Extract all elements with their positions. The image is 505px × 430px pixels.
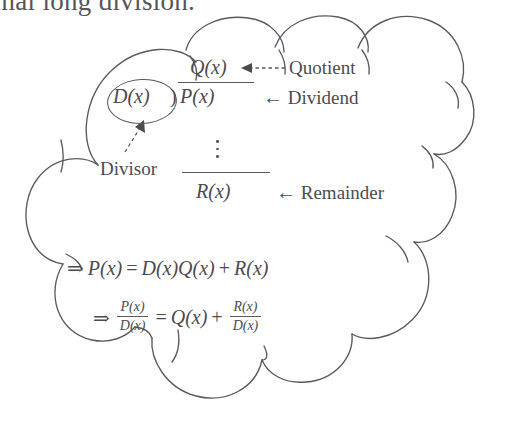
vdot-2 bbox=[216, 148, 219, 151]
eq2-rhs-numerator: R(x) bbox=[230, 299, 262, 316]
eq2-plus: + bbox=[211, 306, 222, 329]
figure-content: Q(x) D(x) ) P(x) R(x) Quotient ← Dividen… bbox=[0, 0, 505, 430]
eq1-plus: + bbox=[219, 257, 230, 279]
eq1-lhs: P(x) bbox=[88, 257, 122, 279]
dividend-label: Dividend bbox=[288, 87, 359, 108]
divisor-expression: D(x) bbox=[113, 85, 150, 108]
vdot-3 bbox=[216, 155, 219, 158]
quotient-label: Quotient bbox=[289, 57, 356, 79]
eq2-equals: = bbox=[155, 306, 166, 329]
vdot-1 bbox=[216, 140, 219, 143]
eq1-equals: = bbox=[126, 257, 137, 279]
eq1-rhs-b: Q(x) bbox=[178, 257, 215, 279]
eq2-rhs-denominator: D(x) bbox=[230, 317, 262, 334]
eq1-rhs-a: D(x) bbox=[141, 257, 178, 279]
dividend-expression: P(x) bbox=[180, 85, 214, 108]
vertical-dots bbox=[216, 140, 220, 163]
remainder-rule bbox=[182, 172, 270, 173]
divisor-label: Divisor bbox=[100, 158, 157, 180]
left-arrow-icon: ← bbox=[276, 181, 296, 203]
equation-line-2: ⇒ P(x) D(x) = Q(x) + R(x) D(x) bbox=[93, 300, 264, 335]
left-arrow-icon: ← bbox=[263, 86, 283, 108]
dividend-label-group: ← Dividend bbox=[263, 86, 358, 109]
division-bracket: ) bbox=[170, 85, 177, 108]
remainder-label: Remainder bbox=[301, 182, 384, 203]
implies-icon: ⇒ bbox=[67, 257, 84, 279]
eq2-lhs-denominator: D(x) bbox=[117, 317, 149, 334]
remainder-label-group: ← Remainder bbox=[276, 181, 384, 204]
quotient-expression: Q(x) bbox=[190, 56, 227, 79]
figure-page: mal long division. bbox=[0, 0, 505, 430]
eq2-lhs-fraction: P(x) D(x) bbox=[117, 299, 149, 334]
implies-icon: ⇒ bbox=[93, 306, 110, 330]
remainder-expression: R(x) bbox=[196, 180, 230, 203]
eq2-rhs-a: Q(x) bbox=[171, 306, 208, 329]
division-vinculum bbox=[178, 82, 254, 83]
eq1-rhs-c: R(x) bbox=[234, 257, 268, 279]
equation-line-1: ⇒ P(x) = D(x)Q(x) + R(x) bbox=[67, 256, 268, 280]
eq2-rhs-fraction: R(x) D(x) bbox=[230, 299, 262, 334]
eq2-lhs-numerator: P(x) bbox=[117, 299, 149, 316]
